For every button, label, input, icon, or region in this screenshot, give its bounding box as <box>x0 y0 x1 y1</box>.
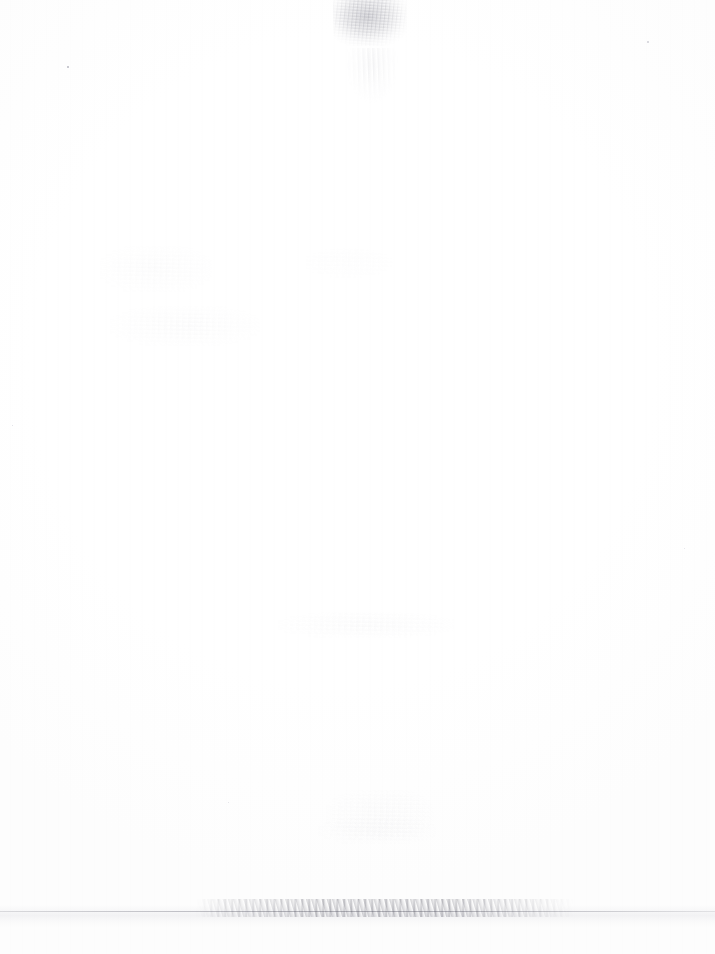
ghost-mark <box>318 818 436 844</box>
ghost-mark <box>326 790 434 840</box>
dust-speck <box>228 802 229 803</box>
smudge-top-icon <box>333 0 407 46</box>
dust-speck <box>12 425 13 426</box>
dust-speck <box>67 66 69 68</box>
fold-line <box>0 911 715 912</box>
paper-surface <box>0 0 715 954</box>
ghost-mark <box>110 306 260 346</box>
scanned-page <box>0 0 715 954</box>
ghost-mark <box>300 248 396 278</box>
scanner-banding <box>0 0 715 954</box>
ghost-mark <box>278 612 454 638</box>
dust-speck <box>684 548 685 549</box>
smudge-tail-icon <box>344 48 400 118</box>
fold-shadow <box>0 905 715 927</box>
ghost-mark <box>100 246 212 292</box>
dust-speck <box>647 41 649 43</box>
fold-speckle <box>196 899 574 917</box>
